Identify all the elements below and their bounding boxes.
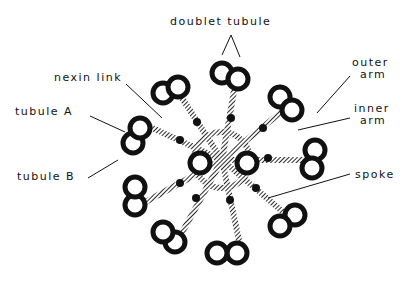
label-outer-arm-2: arm bbox=[360, 69, 386, 81]
label-tubule-a: tubule A bbox=[15, 106, 73, 118]
label-doublet-tubule: doublet tubule bbox=[170, 16, 271, 28]
label-spoke: spoke bbox=[355, 169, 395, 181]
axoneme-diagram bbox=[0, 0, 407, 284]
label-nexin-link: nexin link bbox=[54, 72, 122, 84]
label-inner-arm-2: arm bbox=[360, 115, 386, 127]
label-tubule-b: tubule B bbox=[17, 171, 75, 183]
